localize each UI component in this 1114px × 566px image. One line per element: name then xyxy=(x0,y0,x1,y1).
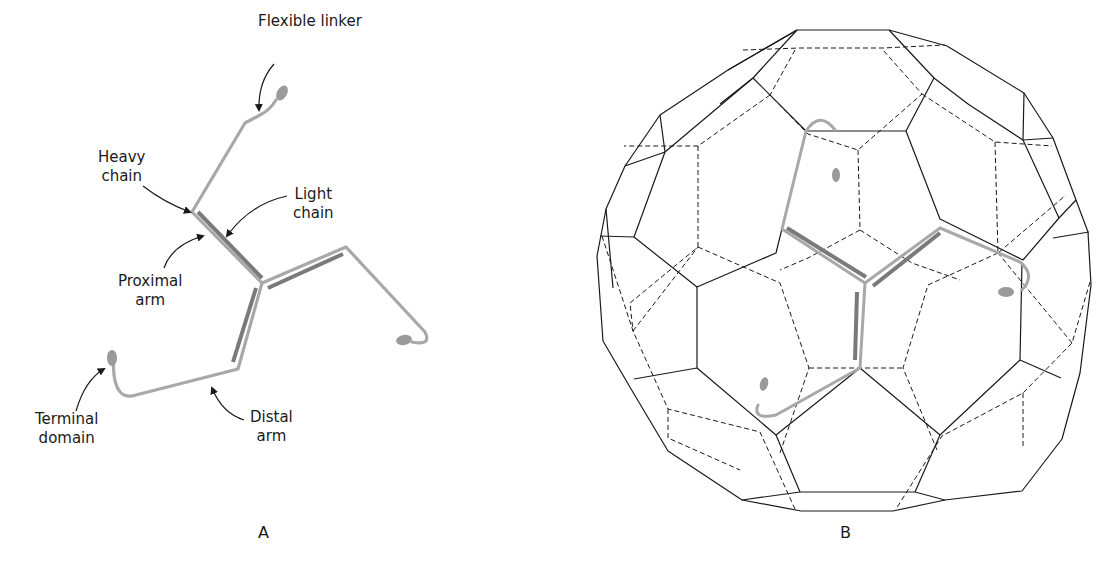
heavy-chain xyxy=(113,100,427,396)
label-proximal-arm: Proximal arm xyxy=(118,272,182,310)
label-terminal-domain: Terminal domain xyxy=(35,410,98,448)
cage-back-edges xyxy=(602,45,1090,509)
terminal-domain xyxy=(107,84,413,366)
panel-b-clathrin-cage xyxy=(597,30,1091,511)
cage-terminal-domain xyxy=(758,168,1014,392)
panel-a-triskelion xyxy=(76,64,427,420)
light-chain xyxy=(198,212,343,362)
label-flexible-linker: Flexible linker xyxy=(258,12,362,31)
label-light-chain: Light chain xyxy=(293,185,334,223)
label-distal-arm: Distal arm xyxy=(250,408,293,446)
panel-label-b: B xyxy=(840,523,851,542)
panel-label-a: A xyxy=(258,523,269,542)
label-heavy-chain: Heavy chain xyxy=(98,148,145,186)
